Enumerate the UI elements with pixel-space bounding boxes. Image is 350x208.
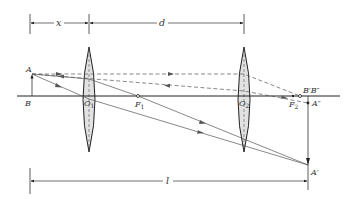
dashed-rays bbox=[32, 74, 308, 103]
image-point-A-double bbox=[307, 102, 310, 105]
image-arrow-A-prime bbox=[306, 158, 310, 165]
label-B-prime-B-double: B′B″ bbox=[302, 86, 320, 95]
dashed-ray-arrow-4 bbox=[164, 84, 170, 88]
label-B: B bbox=[24, 99, 31, 108]
l-dimension-label: l bbox=[166, 175, 169, 186]
label-A-prime: A′ bbox=[310, 168, 319, 177]
dashed-ray-center bbox=[32, 74, 308, 103]
focal-point-F2 bbox=[292, 95, 294, 97]
label-A: A bbox=[25, 65, 32, 74]
label-A-double: A″ bbox=[311, 99, 321, 108]
image-point-BB bbox=[299, 95, 302, 98]
label-F1: F1 bbox=[134, 100, 144, 110]
d-dimension-label: d bbox=[159, 17, 165, 28]
focal-point-F1 bbox=[137, 95, 140, 98]
bottom-dimension-line: l bbox=[30, 168, 307, 194]
solid-ray-arrow-3 bbox=[55, 83, 62, 88]
top-dimension-lines: x d bbox=[30, 14, 244, 34]
label-F2: F2 bbox=[288, 100, 299, 110]
dashed-ray-arrow-2 bbox=[168, 72, 174, 76]
dashed-ray-arrow-1 bbox=[56, 72, 62, 76]
x-dimension-label: x bbox=[56, 17, 62, 28]
optics-diagram: x d bbox=[0, 0, 350, 208]
solid-ray-arrow-1 bbox=[199, 120, 206, 124]
